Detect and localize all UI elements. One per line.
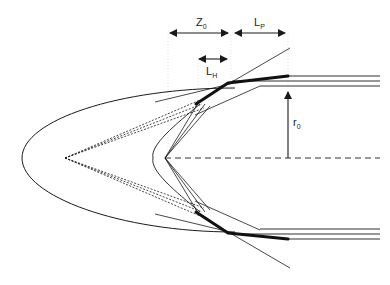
cylinder-lines-bottom: [232, 229, 380, 239]
thick-profile-top: [196, 76, 288, 104]
geometry-diagram: Z0 LP LH r0: [0, 0, 390, 285]
thick-profile-bottom: [196, 212, 288, 239]
dashed-cone-lines: [65, 100, 204, 216]
outer-ellipse-curve: [22, 88, 235, 232]
guide-lines: [168, 35, 288, 158]
z0-label: Z0: [196, 16, 207, 30]
r0-label: r0: [293, 116, 301, 130]
lh-label: LH: [206, 65, 217, 79]
lp-label: LP: [254, 16, 265, 30]
